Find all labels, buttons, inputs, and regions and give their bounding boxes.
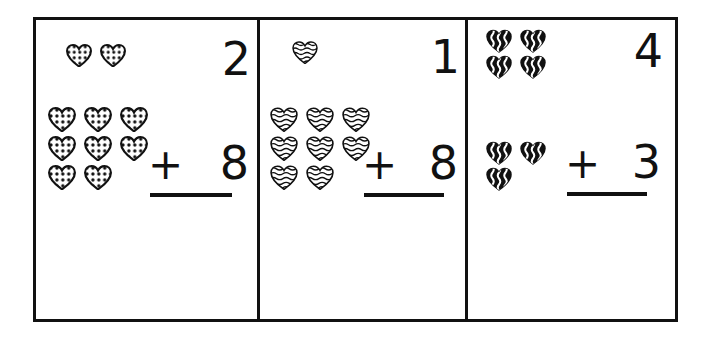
wavy-line-heart-icon: [270, 136, 298, 161]
addend-row-panel-1: + 8: [146, 137, 251, 191]
polka-dot-heart-icon: [100, 44, 126, 67]
addend-bottom-panel-3: 3: [632, 136, 663, 188]
zigzag-heart-icon: [520, 55, 546, 79]
problem-panel-1: 2 + 8: [36, 20, 260, 319]
zigzag-heart-icon: [520, 29, 546, 53]
wavy-line-heart-icon: [306, 165, 334, 190]
addend-row-panel-3: + 3: [563, 136, 663, 190]
polka-dot-heart-icon: [48, 136, 76, 161]
addend-top-panel-2: 1: [360, 32, 460, 82]
worksheet-frame: 2 + 8: [33, 17, 678, 322]
zigzag-heart-icon: [486, 29, 512, 53]
addend-bottom-panel-2: 8: [429, 137, 460, 189]
polka-dot-heart-icon: [120, 107, 148, 132]
polka-dot-heart-icon: [48, 107, 76, 132]
addend-top-panel-3: 4: [563, 26, 663, 76]
heart-group-top-panel-3: [482, 28, 574, 80]
answer-blank-panel-3[interactable]: [563, 196, 663, 256]
wavy-line-heart-icon: [270, 165, 298, 190]
plus-sign-icon: +: [563, 138, 600, 190]
answer-blank-panel-1[interactable]: [146, 197, 251, 257]
zigzag-heart-icon: [520, 141, 546, 165]
zigzag-heart-icon: [486, 167, 512, 191]
polka-dot-heart-icon: [48, 165, 76, 190]
zigzag-heart-icon: [486, 141, 512, 165]
answer-blank-panel-2[interactable]: [360, 197, 460, 257]
addend-top-panel-1: 2: [146, 34, 251, 84]
plus-sign-icon: +: [146, 139, 183, 191]
addend-row-panel-2: + 8: [360, 137, 460, 191]
wavy-line-heart-icon: [292, 41, 318, 64]
addend-bottom-panel-1: 8: [220, 137, 251, 189]
polka-dot-heart-icon: [84, 165, 112, 190]
problem-panel-2: 1 + 8: [260, 20, 468, 319]
zigzag-heart-icon: [486, 55, 512, 79]
wavy-line-heart-icon: [306, 107, 334, 132]
problem-panel-3: 4 + 3: [468, 20, 675, 319]
addition-equation-panel-1: 2 + 8: [146, 34, 251, 257]
polka-dot-heart-icon: [84, 107, 112, 132]
polka-dot-heart-icon: [66, 44, 92, 67]
wavy-line-heart-icon: [306, 136, 334, 161]
addition-equation-panel-3: 4 + 3: [563, 26, 663, 256]
wavy-line-heart-icon: [270, 107, 298, 132]
plus-sign-icon: +: [360, 139, 397, 191]
addition-equation-panel-2: 1 + 8: [360, 32, 460, 257]
heart-group-bottom-panel-3: [482, 140, 574, 192]
polka-dot-heart-icon: [120, 136, 148, 161]
polka-dot-heart-icon: [84, 136, 112, 161]
